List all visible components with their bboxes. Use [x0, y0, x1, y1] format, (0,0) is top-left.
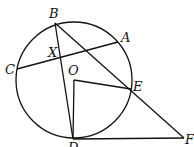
label-o: O	[68, 63, 79, 78]
label-e: E	[132, 79, 143, 94]
label-x: X	[47, 45, 58, 60]
tangent-df	[73, 138, 184, 139]
geometry-diagram: B A C X O E D F	[0, 0, 194, 147]
label-d: D	[67, 140, 79, 147]
label-c: C	[5, 62, 15, 77]
label-b: B	[48, 6, 59, 21]
label-a: A	[120, 30, 130, 45]
radius-oe	[74, 80, 131, 89]
radius-od	[73, 80, 74, 139]
label-f: F	[184, 132, 194, 147]
chord-bd	[55, 23, 73, 139]
